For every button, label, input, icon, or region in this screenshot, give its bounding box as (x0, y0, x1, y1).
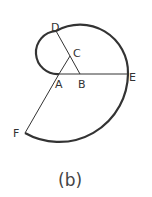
label-a: A (55, 78, 63, 91)
segment-ac (59, 56, 70, 74)
label-d: D (51, 21, 59, 34)
figure-caption: (b) (58, 170, 82, 190)
label-b: B (78, 78, 86, 91)
label-e: E (129, 71, 136, 84)
label-c: C (73, 47, 81, 60)
segment-cd (56, 31, 70, 56)
label-f: F (13, 127, 19, 140)
segment-af (25, 74, 59, 133)
arc-ad (36, 31, 59, 74)
spiral-diagram: D C A B E F (b) (0, 0, 152, 197)
arc-ef (25, 74, 128, 142)
